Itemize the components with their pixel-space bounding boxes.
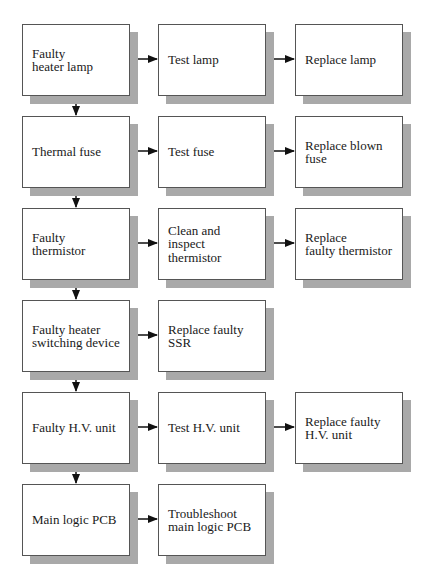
node-label: Test H.V. unit <box>159 421 240 435</box>
node-label: Thermal fuse <box>23 145 101 159</box>
fault-node-hv-unit: Faulty H.V. unit <box>22 392 130 464</box>
step-node-clean-inspect-thermistor: Clean and inspect thermistor <box>158 208 266 280</box>
node-label: Replace blown fuse <box>296 139 383 166</box>
node-label: Troubleshoot main logic PCB <box>159 507 251 534</box>
step-node-test-lamp: Test lamp <box>158 24 266 96</box>
step-node-replace-blown-fuse: Replace blown fuse <box>295 116 403 188</box>
node-label: Replace faulty thermistor <box>296 231 392 258</box>
fault-node-heater-switching-device: Faulty heater switching device <box>22 300 130 372</box>
node-label: Replace faulty SSR <box>159 323 243 350</box>
node-label: Main logic PCB <box>23 513 117 527</box>
step-node-replace-thermistor: Replace faulty thermistor <box>295 208 403 280</box>
node-label: Faulty heater switching device <box>23 323 120 350</box>
fault-node-heater-lamp: Faulty heater lamp <box>22 24 130 96</box>
fault-node-thermistor: Faulty thermistor <box>22 208 130 280</box>
node-label: Replace lamp <box>296 53 376 67</box>
node-label: Test fuse <box>159 145 214 159</box>
node-label: Faulty heater lamp <box>23 47 93 74</box>
node-label: Test lamp <box>159 53 219 67</box>
step-node-test-fuse: Test fuse <box>158 116 266 188</box>
fault-node-thermal-fuse: Thermal fuse <box>22 116 130 188</box>
step-node-replace-lamp: Replace lamp <box>295 24 403 96</box>
node-label: Clean and inspect thermistor <box>159 224 221 265</box>
node-label: Faulty H.V. unit <box>23 421 116 435</box>
step-node-test-hv-unit: Test H.V. unit <box>158 392 266 464</box>
step-node-replace-hv-unit: Replace faulty H.V. unit <box>295 392 403 464</box>
step-node-replace-ssr: Replace faulty SSR <box>158 300 266 372</box>
node-label: Faulty thermistor <box>23 231 85 258</box>
step-node-troubleshoot-pcb: Troubleshoot main logic PCB <box>158 484 266 556</box>
fault-node-main-logic-pcb: Main logic PCB <box>22 484 130 556</box>
node-label: Replace faulty H.V. unit <box>296 415 380 442</box>
